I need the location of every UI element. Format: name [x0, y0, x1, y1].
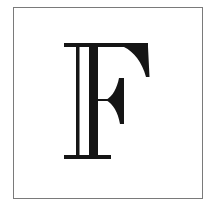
top-serif — [124, 47, 150, 77]
thick-stem — [89, 45, 98, 157]
thin-stem — [76, 45, 80, 157]
letter-f-glyph — [0, 0, 218, 210]
middle-spur — [106, 78, 124, 124]
letter-f-strokes — [64, 43, 150, 159]
bottom-bar — [64, 155, 111, 159]
